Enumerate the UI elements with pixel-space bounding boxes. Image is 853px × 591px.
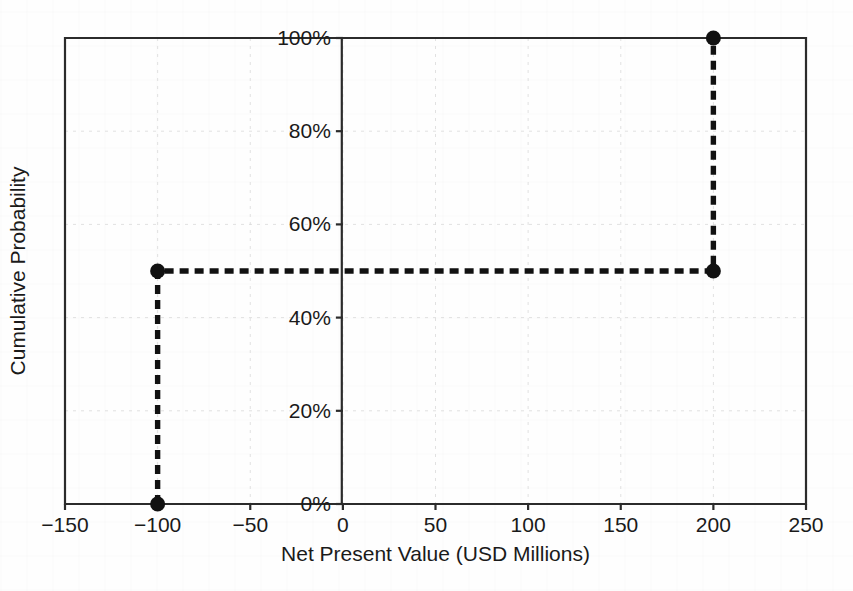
y-tick-label-20: 20% bbox=[289, 399, 331, 422]
data-point-200-50 bbox=[706, 264, 721, 279]
x-tick-label-50: 50 bbox=[424, 513, 447, 536]
y-tick-label-0: 0% bbox=[301, 492, 331, 515]
y-tick-label-100: 100% bbox=[277, 26, 331, 49]
x-tick-label-150: 150 bbox=[603, 513, 638, 536]
x-tick-label--150: −150 bbox=[41, 513, 88, 536]
chart-figure: −150−100−50050100150200250 0%20%40%60%80… bbox=[0, 0, 853, 591]
y-tick-label-60: 60% bbox=[289, 212, 331, 235]
x-tick-label--50: −50 bbox=[232, 513, 268, 536]
y-tick-label-40: 40% bbox=[289, 306, 331, 329]
x-tick-label-0: 0 bbox=[337, 513, 349, 536]
data-point--100-50 bbox=[150, 264, 165, 279]
y-axis-title: Cumulative Probability bbox=[6, 166, 29, 375]
data-point-200-100 bbox=[706, 31, 721, 46]
x-axis-title: Net Present Value (USD Millions) bbox=[281, 542, 590, 565]
step-line-path bbox=[158, 38, 714, 504]
x-tick-label--100: −100 bbox=[134, 513, 181, 536]
data-point--100-0 bbox=[150, 497, 165, 512]
cumulative-probability-chart: −150−100−50050100150200250 0%20%40%60%80… bbox=[0, 0, 853, 591]
x-tick-label-200: 200 bbox=[696, 513, 731, 536]
x-axis-tick-labels: −150−100−50050100150200250 bbox=[41, 513, 823, 536]
x-tick-label-100: 100 bbox=[511, 513, 546, 536]
x-tick-label-250: 250 bbox=[788, 513, 823, 536]
y-tick-label-80: 80% bbox=[289, 119, 331, 142]
